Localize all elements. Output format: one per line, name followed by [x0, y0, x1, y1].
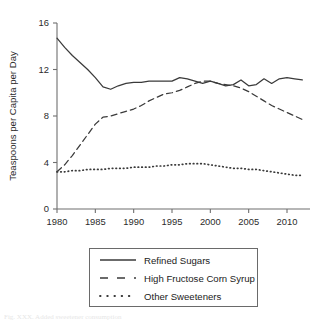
y-tick-label: 12	[39, 64, 49, 75]
y-axis-ticks: 0481216	[39, 17, 57, 214]
legend-swatch-solid	[98, 254, 138, 266]
figure-container: 0481216 1980198519901995200020052010 Tea…	[0, 0, 331, 324]
x-tick-label: 1985	[85, 216, 106, 227]
chart-legend: Refined Sugars High Fructose Corn Syrup …	[89, 248, 258, 307]
legend-label-refined-sugars: Refined Sugars	[144, 255, 210, 266]
y-tick-label: 4	[44, 157, 49, 168]
y-tick-label: 0	[44, 203, 49, 214]
data-series-group	[57, 38, 302, 175]
x-tick-label: 1995	[162, 216, 183, 227]
figure-caption: Fig. XXX. Added sweetener consumption	[4, 313, 324, 321]
series-line-other-sweeteners	[57, 164, 302, 176]
legend-label-other-sweeteners: Other Sweeteners	[144, 291, 221, 302]
axes	[57, 23, 310, 209]
x-tick-label: 1990	[123, 216, 144, 227]
x-tick-label: 2010	[277, 216, 298, 227]
legend-item-refined-sugars: Refined Sugars	[98, 252, 210, 268]
legend-swatch-dashed	[98, 272, 138, 284]
x-tick-label: 2005	[238, 216, 259, 227]
legend-item-high-fructose-corn-syrup: High Fructose Corn Syrup	[98, 270, 255, 286]
legend-label-high-fructose-corn-syrup: High Fructose Corn Syrup	[144, 273, 255, 284]
y-tick-label: 16	[39, 17, 49, 28]
x-tick-label: 2000	[200, 216, 221, 227]
legend-item-other-sweeteners: Other Sweeteners	[98, 288, 221, 304]
x-tick-label: 1980	[47, 216, 68, 227]
series-line-high-fructose-corn-syrup	[57, 81, 302, 172]
y-axis-title: Teaspoons per Capita per Day	[7, 51, 18, 181]
x-axis-ticks: 1980198519901995200020052010	[47, 209, 298, 227]
legend-swatch-dotted	[98, 290, 138, 302]
series-line-refined-sugars	[57, 38, 302, 89]
y-tick-label: 8	[44, 110, 49, 121]
